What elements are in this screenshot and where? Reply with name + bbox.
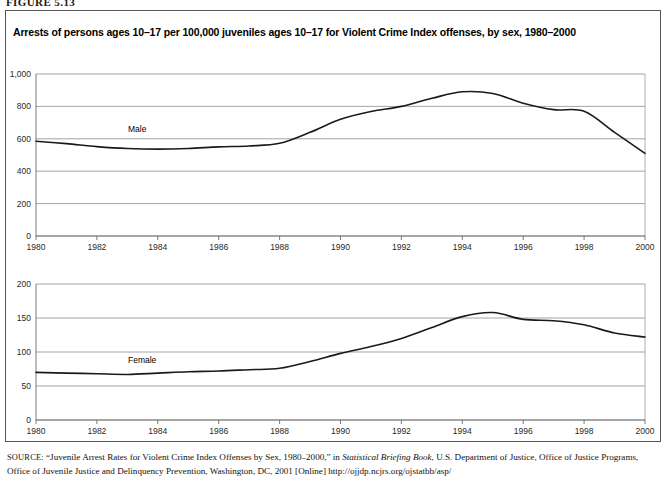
x-axis-tick-label: 1982 [77,426,117,436]
female-series-label: Female [128,355,156,365]
x-axis-tick-label: 1996 [503,426,543,436]
x-axis-tick-label: 1986 [199,426,239,436]
x-axis-tick-label: 2000 [625,426,665,436]
x-axis-tick-label: 1990 [321,426,361,436]
x-axis-tick-label: 1980 [16,426,56,436]
y-axis-tick-label: 100 [0,347,31,357]
y-axis-tick-label: 200 [0,279,31,289]
x-axis-tick-label: 1988 [260,426,300,436]
female-plot-svg [0,0,667,477]
y-axis-tick-label: 50 [0,381,31,391]
source-text-a: “Juvenile Arrest Rates for Violent Crime… [46,452,342,462]
source-prefix: SOURCE: [7,453,44,462]
figure-page: FIGURE 5.13 Arrests of persons ages 10–1… [0,0,667,477]
y-axis-tick-label: 0 [0,415,31,425]
x-axis-tick-label: 1998 [564,426,604,436]
y-axis-tick-label: 150 [0,313,31,323]
source-note: SOURCE: “Juvenile Arrest Rates for Viole… [7,451,657,477]
x-axis-tick-label: 1994 [442,426,482,436]
female-data-line [36,312,645,374]
source-italic-title: Statistical Briefing Book [342,452,431,462]
x-axis-tick-label: 1992 [381,426,421,436]
x-axis-tick-label: 1984 [138,426,178,436]
